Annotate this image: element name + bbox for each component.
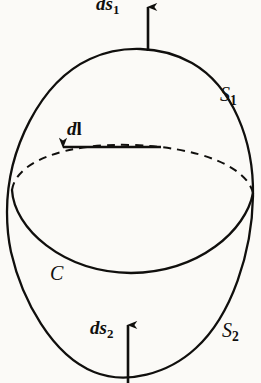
curve-c-dashed-arc bbox=[12, 145, 253, 193]
label-ds1-subscript: 1 bbox=[113, 2, 119, 17]
label-ds2-base: d bbox=[90, 317, 100, 338]
label-ds1: ds1 bbox=[96, 0, 119, 17]
label-s1-symbol: S bbox=[220, 83, 230, 105]
label-ds1-base: d bbox=[96, 0, 106, 14]
label-s1-subscript: 1 bbox=[230, 93, 237, 108]
physics-figure: ds1 S1 dl C ds2 S2 bbox=[0, 0, 261, 383]
label-ds2: ds2 bbox=[90, 318, 113, 341]
label-curve-c-symbol: C bbox=[50, 262, 63, 284]
label-dl: dl bbox=[67, 119, 82, 138]
label-dl-base: d bbox=[67, 118, 77, 139]
label-s2-subscript: 2 bbox=[232, 329, 239, 344]
curve-c-front bbox=[12, 190, 253, 273]
surface-boundary-path bbox=[7, 49, 253, 378]
label-s1: S1 bbox=[220, 84, 237, 107]
curve-c-back bbox=[12, 145, 253, 193]
curve-c-solid-arc bbox=[12, 190, 253, 273]
label-s2-symbol: S bbox=[222, 319, 232, 341]
label-ds2-symbol: s bbox=[100, 317, 107, 338]
label-dl-symbol: l bbox=[77, 118, 82, 139]
label-s2: S2 bbox=[222, 320, 239, 343]
label-ds2-subscript: 2 bbox=[107, 326, 113, 341]
label-ds1-symbol: s bbox=[106, 0, 113, 14]
label-curve-c: C bbox=[50, 263, 63, 283]
closed-surface-outline bbox=[7, 49, 253, 378]
